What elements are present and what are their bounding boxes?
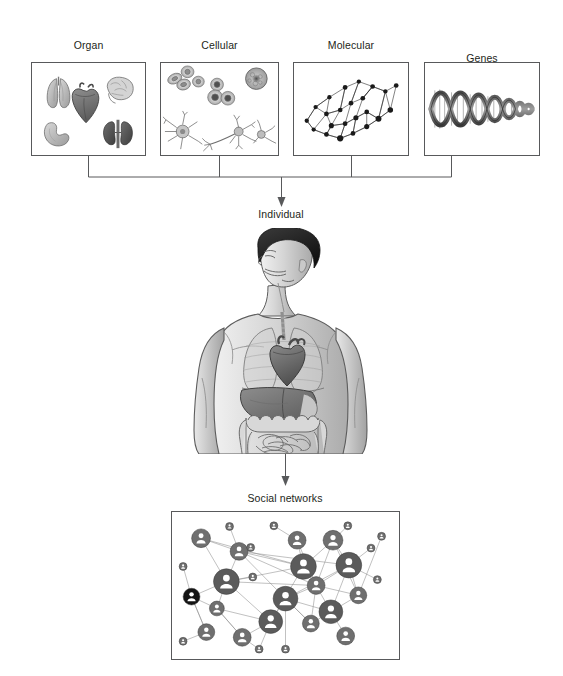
cells-illustration	[161, 63, 278, 155]
social-node[interactable]	[367, 544, 375, 552]
social-node[interactable]	[209, 601, 224, 616]
social-node[interactable]	[255, 645, 263, 653]
panel-label-line1: Cellular	[160, 39, 279, 52]
panel-genes[interactable]	[424, 62, 540, 156]
social-node[interactable]	[198, 624, 215, 641]
node-link-graph	[294, 63, 408, 155]
social-node[interactable]	[378, 532, 386, 540]
social-node[interactable]	[288, 531, 306, 549]
social-node[interactable]	[282, 645, 290, 653]
social-node[interactable]	[179, 637, 187, 645]
social-node[interactable]	[192, 529, 211, 548]
individual-label: Individual	[231, 208, 331, 220]
social-node[interactable]	[291, 554, 317, 580]
social-graph-canvas	[172, 512, 399, 659]
social-node[interactable]	[344, 522, 352, 530]
social-node[interactable]	[247, 544, 255, 552]
social-node[interactable]	[336, 552, 362, 578]
social-node[interactable]	[270, 522, 278, 530]
social-node[interactable]	[373, 576, 381, 584]
figure-root: Organ networks	[0, 0, 563, 676]
social-node[interactable]	[213, 569, 239, 595]
human-torso-anatomy	[172, 228, 390, 454]
organs-illustration	[32, 63, 145, 155]
social-node[interactable]	[226, 523, 234, 531]
social-node[interactable]	[179, 563, 187, 571]
panel-cellular-networks[interactable]	[160, 62, 279, 156]
arrow-to-social-networks	[0, 452, 563, 492]
social-node[interactable]	[307, 577, 325, 595]
dna-helix	[425, 63, 539, 155]
social-node[interactable]	[319, 600, 343, 624]
panel-label-line1: Molecular	[293, 39, 409, 52]
social-node[interactable]	[249, 573, 257, 581]
down-arrow-individual	[278, 197, 286, 207]
social-node[interactable]	[183, 588, 200, 605]
panel-organ-networks[interactable]	[31, 62, 146, 156]
social-node[interactable]	[323, 530, 343, 550]
merge-bracket-connector	[0, 155, 563, 215]
panel-label-line1: Organ	[31, 39, 146, 52]
social-node[interactable]	[230, 543, 248, 561]
social-network-diagram[interactable]	[171, 511, 400, 660]
social-node[interactable]	[233, 628, 251, 646]
panel-molecular-networks[interactable]	[293, 62, 409, 156]
social-node[interactable]	[302, 615, 319, 632]
social-node[interactable]	[337, 627, 355, 645]
social-networks-label: Social networks	[235, 492, 335, 504]
social-node[interactable]	[273, 586, 298, 611]
social-node[interactable]	[259, 610, 283, 634]
social-node[interactable]	[350, 587, 367, 604]
